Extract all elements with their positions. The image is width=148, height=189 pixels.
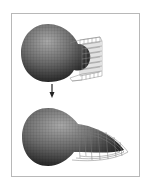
bottom-panel — [22, 108, 128, 166]
top-panel — [21, 24, 102, 82]
deformation-diagram — [0, 0, 148, 189]
deformed-sphere-bottom — [22, 108, 124, 166]
down-arrow-icon — [50, 84, 55, 98]
